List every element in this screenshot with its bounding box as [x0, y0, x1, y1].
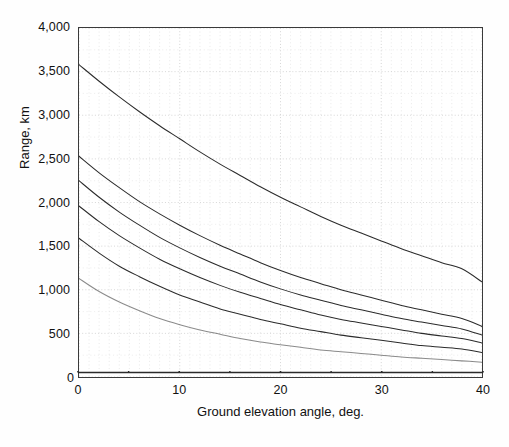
y-tick-label-4000: 4,000 [38, 20, 70, 34]
curve-1 [79, 65, 482, 282]
y-tick-label-2500: 2,500 [38, 152, 70, 166]
range-vs-elevation-angle-chart: 5001,0001,5002,0002,5003,0003,5004,000 R… [0, 0, 509, 447]
x-axis-tick-labels: 010203040 [78, 381, 483, 403]
curve-3 [79, 181, 482, 335]
curve-6 [79, 278, 482, 362]
x-axis-title: Ground elevation angle, deg. [78, 404, 483, 419]
y-tick-label-1500: 1,500 [38, 239, 70, 253]
curve-2 [79, 156, 482, 326]
y-axis-zero-label: 0 [0, 371, 78, 385]
x-tick-label-40: 40 [476, 383, 490, 397]
y-tick-label-3000: 3,000 [38, 108, 70, 122]
x-tick-label-10: 10 [172, 383, 186, 397]
y-tick-label-3500: 3,500 [38, 64, 70, 78]
y-axis-tick-labels: 5001,0001,5002,0002,5003,0003,5004,000 [0, 27, 74, 378]
x-tick-label-30: 30 [375, 383, 389, 397]
y-tick-label-1000: 1,000 [38, 283, 70, 297]
x-tick-label-20: 20 [274, 383, 288, 397]
x-tick-label-0: 0 [75, 383, 82, 397]
y-tick-label-2000: 2,000 [38, 196, 70, 210]
data-curves [79, 28, 482, 377]
y-tick-label-500: 500 [49, 327, 70, 341]
y-axis-title: Range, km [17, 78, 32, 198]
plot-area [78, 27, 483, 378]
